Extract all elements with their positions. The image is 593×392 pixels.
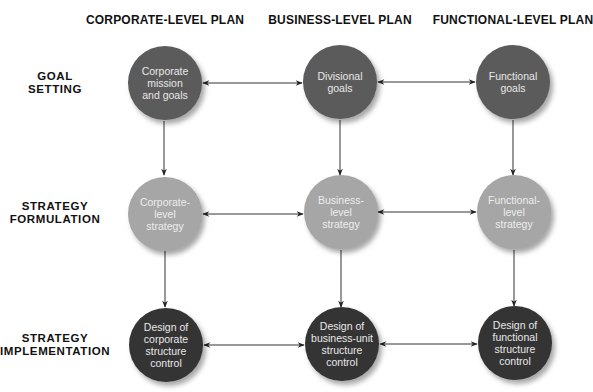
node-label: Corporate	[142, 65, 189, 77]
node-label: business-unit	[311, 332, 373, 344]
node-functional-goals: Functional goals	[476, 45, 550, 119]
node-label: control	[150, 357, 182, 369]
node-label: goals	[500, 82, 525, 94]
node-corporate-structure-control: Design of corporate structure control	[129, 308, 203, 382]
node-label: Business-	[318, 194, 364, 206]
node-label: corporate	[144, 333, 188, 345]
node-corporate-mission-goals: Corporate mission and goals	[128, 46, 202, 120]
node-corporate-level-strategy: Corporate- level strategy	[128, 177, 202, 251]
node-divisional-goals: Divisional goals	[303, 45, 377, 119]
node-label: goals	[327, 82, 352, 94]
node-label: structure	[146, 345, 187, 357]
node-label: level	[154, 208, 176, 220]
node-label: Design of	[493, 319, 537, 331]
node-business-unit-structure-control: Design of business-unit structure contro…	[305, 307, 379, 381]
node-label: functional	[493, 331, 538, 343]
node-functional-level-strategy: Functional- level strategy	[477, 175, 551, 249]
node-functional-structure-control: Design of functional structure control	[478, 306, 552, 380]
node-label: strategy	[322, 218, 359, 230]
node-business-level-strategy: Business- level strategy	[304, 175, 378, 249]
node-label: control	[326, 356, 358, 368]
node-label: level	[330, 206, 352, 218]
node-label: Corporate-	[140, 196, 190, 208]
node-label: and goals	[142, 89, 188, 101]
node-label: Design of	[320, 320, 364, 332]
node-label: strategy	[495, 218, 532, 230]
node-label: level	[503, 206, 525, 218]
node-label: strategy	[146, 220, 183, 232]
node-label: structure	[495, 343, 536, 355]
node-label: Functional	[489, 70, 537, 82]
node-label: mission	[147, 77, 183, 89]
node-label: control	[499, 355, 531, 367]
node-label: Functional-	[488, 194, 540, 206]
node-label: Divisional	[318, 70, 363, 82]
node-label: structure	[322, 344, 363, 356]
node-label: Design of	[144, 321, 188, 333]
